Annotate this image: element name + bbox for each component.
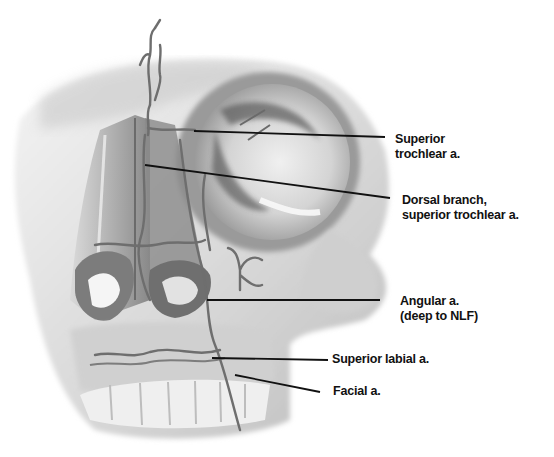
label-dorsal-branch: Dorsal branch, superior trochlear a. bbox=[402, 193, 519, 223]
maxilla-teeth bbox=[70, 323, 275, 429]
skull-illustration bbox=[0, 0, 554, 457]
label-superior-trochlear: Superior trochlear a. bbox=[395, 132, 460, 162]
anatomy-figure: Superior trochlear a. Dorsal branch, sup… bbox=[0, 0, 554, 457]
orbit bbox=[176, 72, 360, 252]
label-facial: Facial a. bbox=[333, 384, 381, 399]
label-angular: Angular a. (deep to NLF) bbox=[400, 294, 478, 324]
label-superior-labial: Superior labial a. bbox=[332, 352, 429, 367]
